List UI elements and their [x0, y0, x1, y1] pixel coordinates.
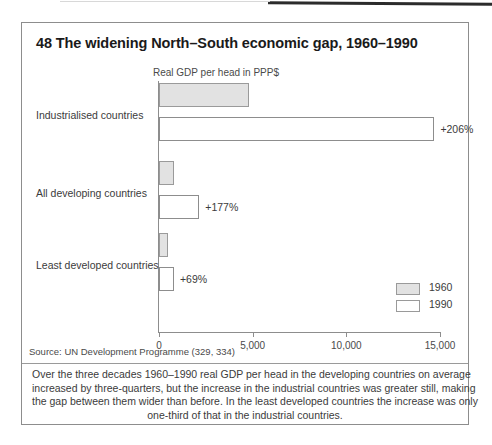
category-label: Least developed countries — [36, 259, 159, 271]
caption-line: Over the three decades 1960–1990 real GD… — [32, 368, 458, 382]
x-tick-label: 15,000 — [425, 340, 456, 351]
legend-label: 1990 — [429, 298, 452, 310]
growth-label: +206% — [440, 123, 473, 135]
x-axis-unit-label: Real GDP per head in PPP$ — [153, 67, 279, 78]
legend-swatch-1960 — [396, 283, 420, 295]
figure-frame: 48 The widening North–South economic gap… — [21, 22, 469, 425]
caption-line: increased by three-quarters, but the inc… — [32, 382, 458, 396]
x-tick-mark — [159, 332, 160, 337]
growth-label: +69% — [180, 273, 207, 285]
chart-legend: 19601990 — [396, 281, 466, 315]
caption-line: the gap between them wider than before. … — [32, 395, 458, 409]
legend-item-1960[interactable]: 1960 — [396, 281, 466, 298]
bar-1990 — [159, 195, 199, 219]
chart-plot-area: Real GDP per head in PPP$ 05,00010,00015… — [22, 63, 468, 338]
bar-1990 — [159, 267, 174, 291]
scan-artifact-dark-line — [268, 1, 492, 5]
figure-title: 48 The widening North–South economic gap… — [36, 35, 418, 51]
bar-1960 — [159, 83, 249, 107]
bar-1990 — [159, 117, 434, 141]
x-tick-label: 5,000 — [240, 340, 265, 351]
x-tick-mark — [253, 332, 254, 337]
scan-artifact-light-line — [60, 1, 270, 2]
category-label: All developing countries — [36, 187, 147, 199]
category-label: Industrialised countries — [36, 109, 143, 121]
caption-line: one-third of that in the industrial coun… — [32, 409, 458, 423]
figure-caption: Over the three decades 1960–1990 real GD… — [32, 368, 458, 422]
x-tick-mark — [346, 332, 347, 337]
legend-item-1990[interactable]: 1990 — [396, 298, 466, 315]
bar-1960 — [159, 161, 174, 185]
page-scan-edge — [0, 0, 492, 14]
bar-1960 — [159, 233, 168, 257]
growth-label: +177% — [205, 201, 238, 213]
legend-label: 1960 — [429, 281, 452, 293]
x-tick-mark — [440, 332, 441, 337]
x-axis-line — [158, 332, 440, 333]
caption-divider — [22, 363, 468, 364]
source-note: Source: UN Development Programme (329, 3… — [29, 346, 235, 357]
x-tick-label: 10,000 — [331, 340, 362, 351]
legend-swatch-1990 — [396, 300, 420, 312]
